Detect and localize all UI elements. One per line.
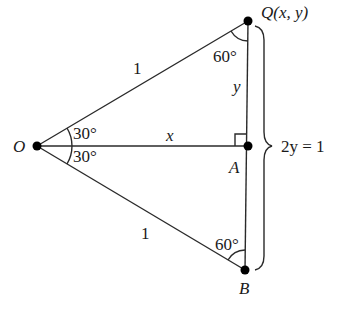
- angle-arc-q: [231, 31, 248, 41]
- label-side-oa: x: [165, 126, 174, 145]
- label-angle-o-upper: 30°: [73, 124, 97, 143]
- brace-label-text: 2y = 1: [281, 137, 325, 156]
- label-angle-o-lower: 30°: [73, 147, 97, 166]
- label-side-qa: y: [231, 77, 241, 96]
- label-side-oq: 1: [133, 59, 142, 78]
- label-angle-q: 60°: [213, 47, 237, 66]
- point-a: [244, 142, 253, 151]
- point-q: [244, 17, 253, 26]
- triangle-diagram: O Q(x, y) A B 1 1 x y 30° 30° 60° 60° 2y…: [0, 0, 346, 309]
- side-oq: [37, 21, 248, 146]
- label-a: A: [228, 158, 240, 177]
- curly-brace: [255, 26, 272, 270]
- label-side-ob: 1: [141, 224, 150, 243]
- point-o: [33, 142, 42, 151]
- side-ob: [37, 146, 245, 270]
- point-b: [241, 266, 250, 275]
- label-angle-b: 60°: [215, 235, 239, 254]
- label-b: B: [239, 279, 250, 298]
- label-o: O: [13, 137, 25, 156]
- label-q: Q(x, y): [261, 3, 309, 22]
- label-brace: 2y = 1: [281, 137, 325, 156]
